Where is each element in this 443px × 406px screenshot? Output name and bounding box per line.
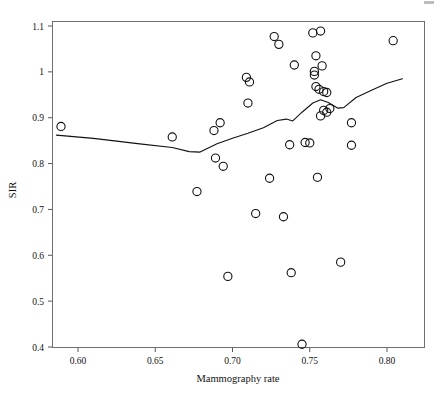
corner-artifact [424,1,434,4]
y-tick-label: 0.7 [32,205,44,215]
x-tick-label: 0.75 [301,356,318,366]
x-tick-label: 0.65 [147,356,164,366]
x-tick-label: 0.60 [70,356,87,366]
y-axis-label: SIR [7,182,18,198]
y-tick-label: 1 [39,67,44,77]
x-axis-label: Mammography rate [196,373,279,384]
x-tick-label: 0.80 [379,356,396,366]
x-tick-label: 0.70 [224,356,241,366]
y-tick-label: 0.4 [32,343,44,353]
y-tick-label: 0.5 [32,297,44,307]
y-tick-label: 0.9 [32,113,44,123]
y-tick-label: 1.1 [32,22,44,32]
scatter-plot: 0.600.650.700.750.80 0.40.50.60.70.80.91… [0,0,443,406]
y-tick-label: 0.6 [32,251,44,261]
plot-background [0,0,443,406]
y-tick-label: 0.8 [32,159,44,169]
chart-root: 0.600.650.700.750.80 0.40.50.60.70.80.91… [0,0,443,406]
